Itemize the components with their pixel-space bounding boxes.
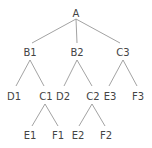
edge-a-b2 bbox=[76, 19, 77, 43]
node-b2: B2 bbox=[70, 47, 83, 58]
edge-c3-e3 bbox=[109, 60, 123, 86]
node-c1: C1 bbox=[39, 91, 52, 102]
edge-b2-d2 bbox=[64, 60, 77, 86]
edge-a-b1 bbox=[32, 19, 76, 43]
node-d2: D2 bbox=[56, 91, 70, 102]
edge-c1-f1 bbox=[45, 104, 58, 126]
node-e2: E2 bbox=[72, 130, 85, 141]
edge-c3-f3 bbox=[123, 60, 137, 86]
tree-edges bbox=[16, 19, 137, 126]
node-e1: E1 bbox=[24, 130, 37, 141]
node-a: A bbox=[73, 8, 80, 19]
node-f1: F1 bbox=[52, 130, 64, 141]
edge-b1-c1 bbox=[30, 60, 44, 86]
node-c2: C2 bbox=[86, 91, 99, 102]
edge-c2-f2 bbox=[92, 104, 105, 126]
node-c3: C3 bbox=[116, 47, 129, 58]
tree-nodes: AB1B2C3D1C1D2C2E3F3E1F1E2F2 bbox=[7, 8, 144, 141]
node-f3: F3 bbox=[132, 91, 144, 102]
edge-a-c3 bbox=[76, 19, 120, 43]
edge-c2-e2 bbox=[79, 104, 92, 126]
edge-b2-c2 bbox=[77, 60, 92, 86]
node-e3: E3 bbox=[104, 91, 117, 102]
node-d1: D1 bbox=[7, 91, 21, 102]
node-b1: B1 bbox=[23, 47, 36, 58]
node-f2: F2 bbox=[100, 130, 112, 141]
tree-diagram: AB1B2C3D1C1D2C2E3F3E1F1E2F2 bbox=[0, 0, 152, 148]
edge-c1-e1 bbox=[32, 104, 45, 126]
edge-b1-d1 bbox=[16, 60, 30, 86]
